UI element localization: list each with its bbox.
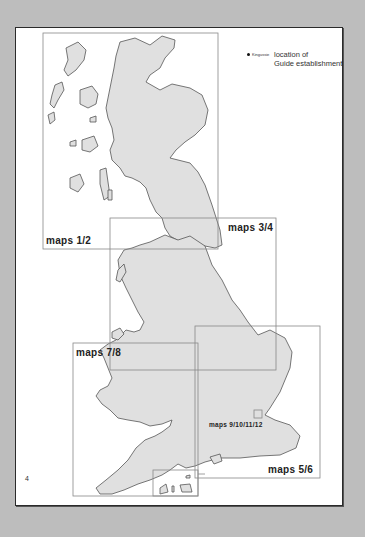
skye — [80, 86, 98, 108]
label-maps-3-4[interactable]: maps 3/4 — [228, 222, 273, 233]
location-dot-icon — [247, 53, 250, 56]
scotland-landmass — [106, 36, 222, 248]
page-number: 4 — [25, 475, 29, 482]
legend-example-town: Kingussie — [252, 50, 269, 59]
legend-description: location of Guide establishment — [274, 50, 342, 68]
channel-islands — [160, 484, 168, 494]
label-maps-1-2[interactable]: maps 1/2 — [46, 235, 91, 246]
outer-hebrides — [64, 42, 86, 76]
label-maps-9-12[interactable]: maps 9/10/11/12 — [209, 421, 263, 428]
great-britain-map — [0, 0, 365, 537]
label-maps-7-8[interactable]: maps 7/8 — [76, 347, 121, 358]
label-maps-5-6[interactable]: maps 5/6 — [268, 464, 313, 475]
